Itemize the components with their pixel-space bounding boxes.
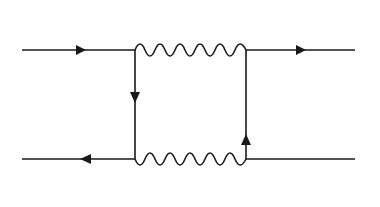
arrow-up-icon bbox=[241, 134, 251, 145]
arrow-left-icon bbox=[80, 154, 91, 164]
arrow-right-icon bbox=[76, 45, 86, 55]
feynman-diagram bbox=[0, 0, 380, 207]
w-boson-top-wavy bbox=[135, 44, 246, 56]
arrow-down-icon bbox=[130, 92, 140, 103]
w-boson-bottom-wavy bbox=[135, 153, 246, 165]
arrow-right-icon bbox=[296, 45, 306, 55]
